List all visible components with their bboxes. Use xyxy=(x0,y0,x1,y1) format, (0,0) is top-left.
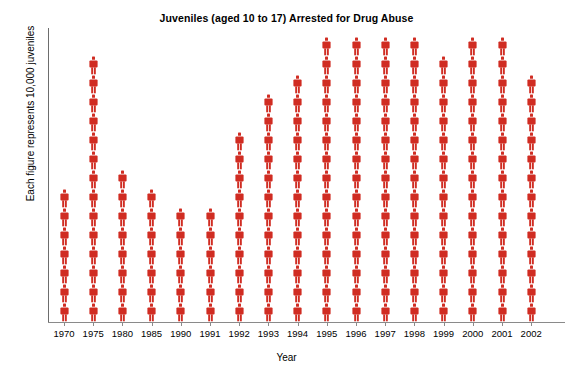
person-figure-icon xyxy=(437,246,450,265)
person-figure-icon xyxy=(233,208,246,227)
person-figure-icon xyxy=(116,227,129,246)
person-figure-icon xyxy=(87,113,100,132)
person-figure-icon xyxy=(204,303,217,322)
person-figure-icon xyxy=(496,132,509,151)
person-figure-icon xyxy=(350,189,363,208)
pictogram-column-1990 xyxy=(170,208,192,322)
person-figure-icon xyxy=(437,265,450,284)
pictogram-column-1992 xyxy=(228,132,250,322)
person-figure-icon xyxy=(320,208,333,227)
person-figure-icon xyxy=(320,151,333,170)
person-figure-icon xyxy=(437,189,450,208)
person-figure-icon xyxy=(116,170,129,189)
pictogram-column-1975 xyxy=(82,56,104,322)
person-figure-icon xyxy=(408,303,421,322)
person-figure-icon xyxy=(466,75,479,94)
person-figure-icon xyxy=(379,227,392,246)
person-figure-icon xyxy=(437,170,450,189)
person-figure-icon xyxy=(58,303,71,322)
person-figure-icon xyxy=(437,208,450,227)
pictogram-column-2001 xyxy=(491,37,513,322)
person-figure-icon xyxy=(379,208,392,227)
person-figure-icon xyxy=(58,227,71,246)
person-figure-icon xyxy=(262,113,275,132)
person-figure-icon xyxy=(525,265,538,284)
person-figure-icon xyxy=(437,56,450,75)
person-figure-icon xyxy=(87,94,100,113)
plot-area xyxy=(0,0,573,375)
person-figure-icon xyxy=(116,284,129,303)
person-figure-icon xyxy=(320,132,333,151)
person-figure-icon xyxy=(437,132,450,151)
x-axis-tick-1990 xyxy=(181,322,182,326)
person-figure-icon xyxy=(262,227,275,246)
person-figure-icon xyxy=(379,94,392,113)
x-axis-tick-2002 xyxy=(531,322,532,326)
x-axis-tick-1992 xyxy=(239,322,240,326)
x-axis-tick-1997 xyxy=(385,322,386,326)
person-figure-icon xyxy=(437,151,450,170)
person-figure-icon xyxy=(350,303,363,322)
person-figure-icon xyxy=(466,151,479,170)
person-figure-icon xyxy=(87,227,100,246)
person-figure-icon xyxy=(437,284,450,303)
person-figure-icon xyxy=(408,265,421,284)
person-figure-icon xyxy=(496,227,509,246)
person-figure-icon xyxy=(320,265,333,284)
person-figure-icon xyxy=(233,170,246,189)
person-figure-icon xyxy=(525,208,538,227)
person-figure-icon xyxy=(350,56,363,75)
person-figure-icon xyxy=(291,132,304,151)
person-figure-icon xyxy=(320,303,333,322)
pictogram-column-1998 xyxy=(403,37,425,322)
person-figure-icon xyxy=(466,246,479,265)
person-figure-icon xyxy=(466,113,479,132)
person-figure-icon xyxy=(87,303,100,322)
person-figure-icon xyxy=(174,303,187,322)
person-figure-icon xyxy=(466,303,479,322)
person-figure-icon xyxy=(291,246,304,265)
person-figure-icon xyxy=(262,151,275,170)
person-figure-icon xyxy=(174,227,187,246)
x-axis-tick-1985 xyxy=(152,322,153,326)
person-figure-icon xyxy=(233,303,246,322)
person-figure-icon xyxy=(437,227,450,246)
person-figure-icon xyxy=(233,284,246,303)
person-figure-icon xyxy=(291,151,304,170)
person-figure-icon xyxy=(379,56,392,75)
person-figure-icon xyxy=(525,246,538,265)
person-figure-icon xyxy=(320,284,333,303)
person-figure-icon xyxy=(350,265,363,284)
pictogram-chart: Juveniles (aged 10 to 17) Arrested for D… xyxy=(0,0,573,375)
person-figure-icon xyxy=(379,75,392,94)
person-figure-icon xyxy=(233,265,246,284)
person-figure-icon xyxy=(145,227,158,246)
person-figure-icon xyxy=(350,113,363,132)
person-figure-icon xyxy=(408,75,421,94)
person-figure-icon xyxy=(496,56,509,75)
person-figure-icon xyxy=(262,284,275,303)
person-figure-icon xyxy=(496,37,509,56)
person-figure-icon xyxy=(350,151,363,170)
person-figure-icon xyxy=(496,208,509,227)
person-figure-icon xyxy=(525,227,538,246)
person-figure-icon xyxy=(379,265,392,284)
x-axis-tick-1998 xyxy=(414,322,415,326)
person-figure-icon xyxy=(262,189,275,208)
person-figure-icon xyxy=(87,75,100,94)
person-figure-icon xyxy=(525,132,538,151)
person-figure-icon xyxy=(496,246,509,265)
person-figure-icon xyxy=(291,227,304,246)
person-figure-icon xyxy=(204,246,217,265)
person-figure-icon xyxy=(320,56,333,75)
person-figure-icon xyxy=(525,75,538,94)
person-figure-icon xyxy=(437,75,450,94)
person-figure-icon xyxy=(58,189,71,208)
person-figure-icon xyxy=(145,246,158,265)
person-figure-icon xyxy=(262,132,275,151)
person-figure-icon xyxy=(466,208,479,227)
person-figure-icon xyxy=(408,246,421,265)
person-figure-icon xyxy=(466,265,479,284)
person-figure-icon xyxy=(291,284,304,303)
person-figure-icon xyxy=(379,246,392,265)
